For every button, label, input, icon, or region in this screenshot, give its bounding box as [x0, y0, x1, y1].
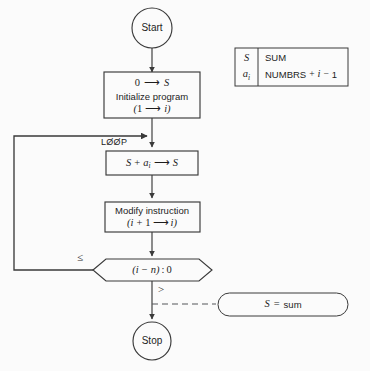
legend-row-0-value: SUM	[265, 52, 286, 63]
flowchart-svg: Start 0⟶S Initialize program (1⟶i) LØØP …	[0, 0, 370, 371]
node-stop-label: Stop	[142, 335, 163, 346]
legend-row-0-key: S	[244, 52, 250, 63]
legend-border	[235, 48, 348, 86]
branch-label-greater: >	[158, 283, 164, 295]
node-initialize-line3: (1⟶i)	[133, 103, 171, 115]
branch-label-less-equal: ≤	[77, 251, 83, 263]
flowchart-canvas: Start 0⟶S Initialize program (1⟶i) LØØP …	[0, 0, 370, 371]
node-start-label: Start	[141, 22, 162, 33]
node-modify-line1: Modify instruction	[115, 205, 189, 216]
loop-label: LØØP	[101, 137, 127, 147]
legend-table: S SUM ai NUMBRS+i−1	[235, 48, 348, 86]
legend-row-1-value: NUMBRS+i−1	[265, 68, 337, 79]
node-initialize-line2: Initialize program	[116, 91, 188, 102]
node-accumulate[interactable]	[106, 151, 198, 175]
node-decision-label: (i−n):0	[132, 264, 171, 276]
